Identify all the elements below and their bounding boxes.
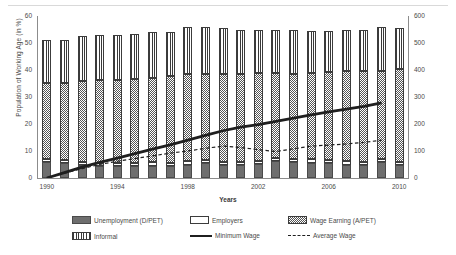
bar-segment-wageearning xyxy=(166,76,175,163)
bar-segment-employers xyxy=(148,162,157,165)
bar-segment-wageearning xyxy=(183,74,192,162)
bar-segment-wageearning xyxy=(377,71,386,159)
bar-segment-wageearning xyxy=(324,72,333,159)
plot-area xyxy=(38,16,408,178)
bar-segment-employers xyxy=(166,163,175,166)
bar-segment-informal xyxy=(60,40,69,82)
bar-stack[interactable] xyxy=(324,31,333,178)
bar-segment-wageearning xyxy=(130,79,139,163)
bar-stack[interactable] xyxy=(95,35,104,178)
bar-stack[interactable] xyxy=(342,30,351,179)
bar-stack[interactable] xyxy=(201,27,210,178)
legend-item-minwage[interactable]: Minimum Wage xyxy=(190,232,260,239)
bar-segment-employers xyxy=(342,161,351,165)
bar-segment-informal xyxy=(42,40,51,82)
bar-stack[interactable] xyxy=(42,40,51,178)
bar-segment-informal xyxy=(95,35,104,80)
legend-item-unemployment[interactable]: Unemployment (D/PET) xyxy=(72,216,163,224)
bar-segment-employers xyxy=(42,159,51,162)
bar-stack[interactable] xyxy=(148,32,157,178)
bar-segment-informal xyxy=(342,30,351,72)
bar-segment-employers xyxy=(78,162,87,165)
bar-segment-wageearning xyxy=(42,83,51,159)
chart-legend: Unemployment (D/PET)EmployersWage Earnin… xyxy=(0,212,456,252)
bar-segment-wageearning xyxy=(307,73,316,160)
y-axis-line-right xyxy=(408,16,409,179)
bar-stack[interactable] xyxy=(60,40,69,178)
bar-segment-informal xyxy=(130,34,139,79)
x-tick-label: 1998 xyxy=(168,183,208,190)
bar-segment-unemployment xyxy=(219,165,228,179)
bar-segment-informal xyxy=(113,35,122,80)
legend-item-avgwage[interactable]: Average Wage xyxy=(288,232,356,239)
bar-stack[interactable] xyxy=(130,34,139,178)
bar-segment-informal xyxy=(148,32,157,77)
x-tick-label: 2010 xyxy=(379,183,419,190)
y-tick-label-right: 0 xyxy=(414,174,440,181)
bar-stack[interactable] xyxy=(377,27,386,178)
bar-segment-wageearning xyxy=(78,81,87,162)
bar-segment-informal xyxy=(377,27,386,71)
bar-segment-informal xyxy=(395,28,404,69)
bar-segment-wageearning xyxy=(236,74,245,163)
bar-segment-wageearning xyxy=(219,74,228,162)
y-tick-label-left: 20 xyxy=(8,120,32,127)
bar-segment-wageearning xyxy=(113,80,122,163)
bar-segment-wageearning xyxy=(271,73,280,158)
bar-stack[interactable] xyxy=(395,28,404,178)
legend-item-wageearning[interactable]: Wage Earning (A/PET) xyxy=(288,216,376,224)
bar-segment-wageearning xyxy=(359,71,368,162)
bar-stack[interactable] xyxy=(289,30,298,179)
x-tick-label: 1990 xyxy=(27,183,67,190)
bar-stack[interactable] xyxy=(254,30,263,179)
bar-stack[interactable] xyxy=(166,32,175,178)
bar-stack[interactable] xyxy=(78,36,87,178)
bar-stack[interactable] xyxy=(271,30,280,179)
y-tick-label-right: 500 xyxy=(414,39,440,46)
bar-segment-employers xyxy=(95,163,104,166)
bar-segment-unemployment xyxy=(307,163,316,178)
bar-segment-informal xyxy=(307,31,316,73)
y-tick-label-right: 600 xyxy=(414,12,440,19)
legend-item-employers[interactable]: Employers xyxy=(190,216,243,224)
bar-stack[interactable] xyxy=(183,27,192,178)
bar-segment-informal xyxy=(201,27,210,74)
bar-segment-employers xyxy=(324,160,333,164)
bar-segment-informal xyxy=(254,30,263,73)
bar-segment-unemployment xyxy=(42,162,51,178)
bar-segment-employers xyxy=(359,162,368,166)
bar-segment-unemployment xyxy=(166,166,175,178)
x-axis-line xyxy=(37,178,409,179)
bar-segment-employers xyxy=(130,163,139,166)
bar-stack[interactable] xyxy=(307,31,316,178)
bar-segment-wageearning xyxy=(95,80,104,163)
bar-segment-employers xyxy=(113,163,122,166)
bar-stack[interactable] xyxy=(359,30,368,179)
bar-segment-informal xyxy=(324,31,333,72)
bar-segment-informal xyxy=(183,27,192,74)
bar-segment-employers xyxy=(60,160,69,163)
y-tick-label-right: 400 xyxy=(414,66,440,73)
legend-swatch-wageearning-icon xyxy=(288,216,307,224)
bar-segment-employers xyxy=(271,158,280,161)
legend-label: Employers xyxy=(212,217,243,224)
bar-segment-unemployment xyxy=(377,162,386,178)
bar-segment-informal xyxy=(289,30,298,74)
x-axis-title: Years xyxy=(0,196,456,203)
legend-item-informal[interactable]: Informal xyxy=(72,232,117,240)
y-tick-label-right: 200 xyxy=(414,120,440,127)
bar-segment-employers xyxy=(307,159,316,162)
y-tick-label-right: 100 xyxy=(414,147,440,154)
bar-segment-unemployment xyxy=(130,166,139,178)
bar-segment-unemployment xyxy=(342,165,351,179)
bar-segment-employers xyxy=(201,160,210,163)
bar-stack[interactable] xyxy=(236,30,245,179)
bar-segment-informal xyxy=(219,28,228,73)
bar-segment-employers xyxy=(395,162,404,165)
bar-segment-employers xyxy=(254,161,263,164)
bar-segment-employers xyxy=(236,162,245,165)
bar-segment-unemployment xyxy=(95,166,104,178)
bar-stack[interactable] xyxy=(219,28,228,178)
bar-stack[interactable] xyxy=(113,35,122,178)
bar-segment-unemployment xyxy=(201,163,210,178)
